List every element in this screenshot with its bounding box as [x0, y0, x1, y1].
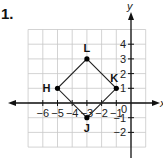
- x-axis-left-arrow-icon: [8, 100, 16, 106]
- axes: y x 0: [8, 0, 163, 158]
- y-tick-label: 2: [120, 68, 126, 80]
- vertex-label-J: J: [84, 122, 90, 134]
- x-axis-label: x: [159, 97, 163, 109]
- y-tick-label: 1: [120, 82, 126, 94]
- vertex-label-K: K: [110, 72, 118, 84]
- vertex-point-L: [84, 56, 89, 61]
- y-tick-label: −2: [113, 126, 126, 138]
- vertex-point-H: [55, 86, 60, 91]
- x-tick-label: −6: [37, 107, 50, 119]
- y-axis-up-arrow-icon: [128, 12, 134, 20]
- vertex-label-H: H: [43, 82, 51, 94]
- x-tick-label: −5: [51, 107, 64, 119]
- x-axis-right-arrow-icon: [152, 100, 160, 106]
- y-tick-label: 4: [120, 38, 126, 50]
- x-tick-label: −4: [66, 107, 79, 119]
- vertices: LKJH: [43, 42, 119, 134]
- coordinate-plane: y x 0 −6−5−4−3−2−14321−1−2 LKJH: [0, 0, 163, 158]
- y-tick-label: 3: [120, 53, 126, 65]
- y-tick-label: −1: [113, 112, 126, 124]
- vertex-point-J: [84, 115, 89, 120]
- y-axis-label: y: [126, 0, 134, 12]
- vertex-point-K: [114, 86, 119, 91]
- vertex-label-L: L: [84, 42, 91, 54]
- x-tick-label: −2: [95, 107, 108, 119]
